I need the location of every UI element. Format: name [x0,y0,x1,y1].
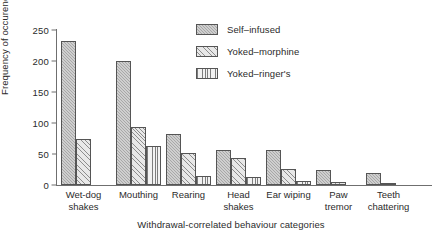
bar-chart: Frequency of occurence 050100150200250 W… [0,0,438,238]
y-axis-tick-mark [52,123,57,124]
legend-label: Yoked–ringer's [227,68,291,79]
bar[interactable] [366,173,381,185]
bar[interactable] [246,177,261,185]
y-axis-tick-mark [52,61,57,62]
bar[interactable] [381,183,396,185]
x-axis-title-text: Withdrawal-correlated behaviour categori… [113,219,324,230]
legend: Self–infusedYoked–morphineYoked–ringer's [196,18,299,84]
y-axis-tick-mark [52,92,57,93]
legend-item[interactable]: Yoked–morphine [196,40,299,62]
bar[interactable] [131,127,146,185]
x-axis-tick-label: Teeth chattering [357,189,420,212]
x-axis-line [56,185,432,186]
y-axis-tick-label: 100 [33,118,49,129]
bar-group [366,30,411,185]
y-axis-tick-label: 50 [38,149,49,160]
y-axis-tick-mark [52,154,57,155]
y-axis-tick-label: 0 [44,180,49,191]
bar[interactable] [281,169,296,185]
bar[interactable] [181,153,196,185]
bar[interactable] [266,150,281,185]
y-axis-tick-mark [52,30,57,31]
legend-swatch [196,24,218,35]
y-axis-tick: 250 [33,25,57,36]
bar[interactable] [296,181,311,185]
bar-group [116,30,161,185]
legend-label: Self–infused [227,24,281,35]
y-axis-tick-mark [52,185,57,186]
bar-group [316,30,361,185]
bar[interactable] [146,146,161,185]
bar[interactable] [61,41,76,185]
y-axis-tick: 200 [33,56,57,67]
x-axis-title: Withdrawal-correlated behaviour categori… [0,219,438,230]
legend-label: Yoked–morphine [227,46,299,57]
bar[interactable] [316,170,331,186]
bar-group [61,30,106,185]
y-axis-tick-label: 200 [33,56,49,67]
bar[interactable] [331,182,346,185]
y-axis-tick: 100 [33,118,57,129]
y-axis-tick-label: 250 [33,25,49,36]
legend-swatch [196,46,218,57]
legend-item[interactable]: Self–infused [196,18,299,40]
bar[interactable] [196,176,211,185]
y-axis-title: Frequency of occurence [0,0,10,95]
legend-item[interactable]: Yoked–ringer's [196,62,299,84]
x-axis-tick-label: Wet-dog shakes [52,189,115,212]
bar[interactable] [216,150,231,185]
bar[interactable] [231,158,246,185]
y-axis-tick: 50 [38,149,57,160]
bar[interactable] [116,61,131,185]
legend-swatch [196,68,218,79]
y-axis-tick-label: 150 [33,87,49,98]
bar[interactable] [166,134,181,185]
bar[interactable] [76,139,91,186]
y-axis-tick: 150 [33,87,57,98]
